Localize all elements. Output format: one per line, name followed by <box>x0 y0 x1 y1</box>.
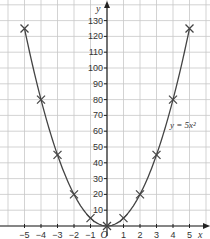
x-tick-label: 2 <box>137 230 142 239</box>
y-axis-label: y <box>95 3 101 14</box>
y-tick-label: 120 <box>88 31 103 41</box>
x-axis-label: x <box>197 229 203 239</box>
equation-label: y = 5x² <box>169 120 196 130</box>
y-tick-label: 60 <box>93 126 103 136</box>
y-tick-label: 90 <box>93 79 103 89</box>
x-tick-label: −1 <box>85 230 95 239</box>
parabola-plot: −5−4−3−2−1123451020304050607080901001101… <box>0 0 210 239</box>
grid-lines <box>0 0 210 226</box>
y-tick-label: 50 <box>93 142 103 152</box>
y-tick-label: 80 <box>93 95 103 105</box>
x-tick-label: −4 <box>36 230 46 239</box>
y-tick-label: 130 <box>88 16 103 26</box>
tick-labels: −5−4−3−2−1123451020304050607080901001101… <box>19 16 192 239</box>
y-tick-label: 70 <box>93 110 103 120</box>
y-tick-label: 30 <box>93 174 103 184</box>
x-tick-label: −2 <box>69 230 79 239</box>
y-tick-label: 20 <box>93 189 103 199</box>
y-tick-label: 100 <box>88 63 103 73</box>
x-tick-label: 5 <box>187 230 192 239</box>
x-tick-label: 1 <box>121 230 126 239</box>
x-axis-arrow-icon <box>203 223 210 229</box>
y-tick-label: 10 <box>93 205 103 215</box>
y-tick-label: 110 <box>89 47 103 57</box>
origin-label: O <box>100 229 107 239</box>
x-tick-label: −5 <box>19 230 29 239</box>
x-tick-label: 4 <box>170 230 175 239</box>
x-tick-label: 3 <box>154 230 159 239</box>
y-tick-label: 40 <box>93 158 103 168</box>
x-tick-label: −3 <box>52 230 62 239</box>
chart-container: −5−4−3−2−1123451020304050607080901001101… <box>0 0 210 239</box>
